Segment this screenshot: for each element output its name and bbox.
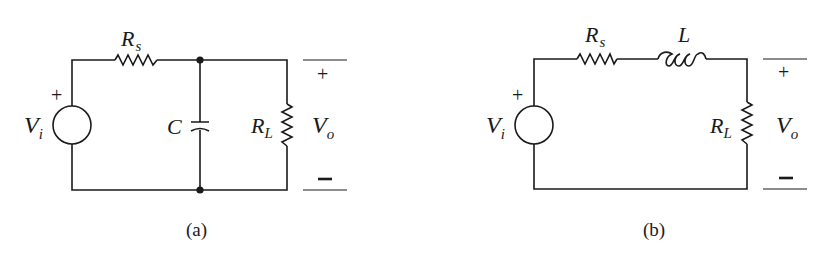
caption-a: (a) <box>186 219 207 241</box>
voltage-source-a-icon <box>53 106 91 144</box>
circuit-figure: Rs + Vi C RL Vo + (a) Rs L + Vi RL Vo + <box>0 0 822 260</box>
label-rl-b: RL <box>709 113 732 141</box>
wire-b-top-left <box>534 59 577 106</box>
label-vo-b: Vo <box>776 112 799 142</box>
wire-a-top-mid <box>157 60 287 104</box>
resistor-rl-a-icon <box>282 104 292 146</box>
label-c: C <box>167 114 182 139</box>
resistor-rs-b-icon <box>577 54 617 64</box>
wire-a-top-left <box>72 60 115 106</box>
node-a-bottom <box>196 186 203 193</box>
label-rs-a: Rs <box>120 26 141 54</box>
label-vi-a: Vi <box>24 112 43 142</box>
label-l: L <box>677 22 690 47</box>
resistor-rs-a-icon <box>115 55 157 65</box>
wire-b-top-right <box>706 59 747 102</box>
circuit-a: Rs + Vi C RL Vo + (a) <box>24 26 347 241</box>
wire-a-bottom <box>72 144 287 190</box>
capacitor-c-icon <box>191 122 209 131</box>
label-vi-b: Vi <box>486 112 505 142</box>
vo-b-plus: + <box>778 61 789 83</box>
circuit-b: Rs L + Vi RL Vo + (b) <box>486 22 807 241</box>
label-rl-a: RL <box>250 113 273 141</box>
label-rs-b: Rs <box>584 22 605 50</box>
source-b-plus: + <box>512 84 523 106</box>
voltage-source-b-icon <box>515 106 553 144</box>
node-a-top <box>196 56 203 63</box>
resistor-rl-b-icon <box>742 102 752 144</box>
label-vo-a: Vo <box>312 112 335 142</box>
caption-b: (b) <box>643 219 665 241</box>
source-a-plus: + <box>51 84 62 106</box>
inductor-l-icon <box>658 52 706 66</box>
vo-a-plus: + <box>317 63 328 85</box>
wire-b-bottom <box>534 144 747 189</box>
